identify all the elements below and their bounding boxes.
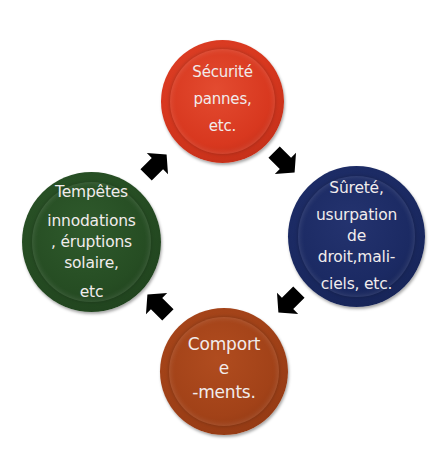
node-surete: Sûreté, usurpation de droit,mali- ciels,… xyxy=(288,166,425,307)
node-label-line: Comport xyxy=(188,332,260,356)
arrow-down-right-icon xyxy=(267,145,301,179)
node-label-line: Sécurité xyxy=(192,59,252,86)
node-label-line: ciels, etc. xyxy=(321,274,392,295)
node-label-line: Sûreté, xyxy=(329,178,383,199)
arrow-up-right-icon xyxy=(139,148,173,182)
arrow-up-left-icon xyxy=(141,288,175,322)
node-label-line: pannes, xyxy=(193,86,251,113)
node-label-line: -ments. xyxy=(192,380,255,404)
node-label-line: , éruptions xyxy=(51,232,132,253)
node-label-line: usurpation xyxy=(316,205,397,226)
node-label-line: solaire, xyxy=(64,253,119,274)
node-label-line: etc. xyxy=(209,113,236,140)
node-securite: Sécurité pannes, etc. xyxy=(161,40,284,163)
node-comportements: Comport e -ments. xyxy=(160,308,288,435)
node-label-line: etc xyxy=(80,282,104,303)
node-label-line: de xyxy=(347,226,366,247)
node-label-line: e xyxy=(219,356,229,380)
node-label-line: innodations xyxy=(47,211,135,232)
node-label-line: Tempêtes xyxy=(55,182,128,203)
cycle-diagram: Sécurité pannes, etc. Sûreté, usurpation… xyxy=(0,0,445,464)
node-label-line: droit,mali- xyxy=(318,247,395,268)
arrow-down-left-icon xyxy=(272,285,306,319)
